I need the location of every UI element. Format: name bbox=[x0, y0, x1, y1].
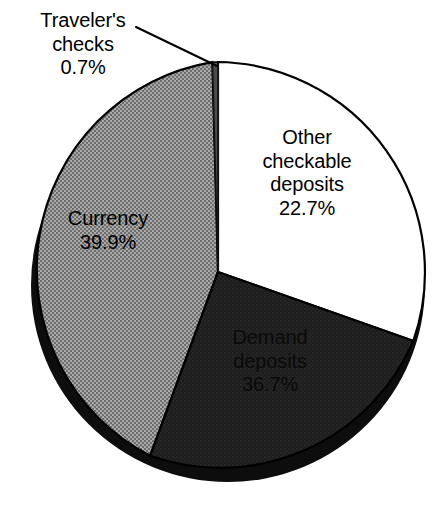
pie-chart-figure: Traveler's checks 0.7% Other checkable d… bbox=[0, 0, 440, 518]
bottom-caption bbox=[0, 500, 440, 518]
travelers-checks-leader-line bbox=[136, 27, 217, 66]
pie-chart-graphic bbox=[0, 0, 440, 518]
